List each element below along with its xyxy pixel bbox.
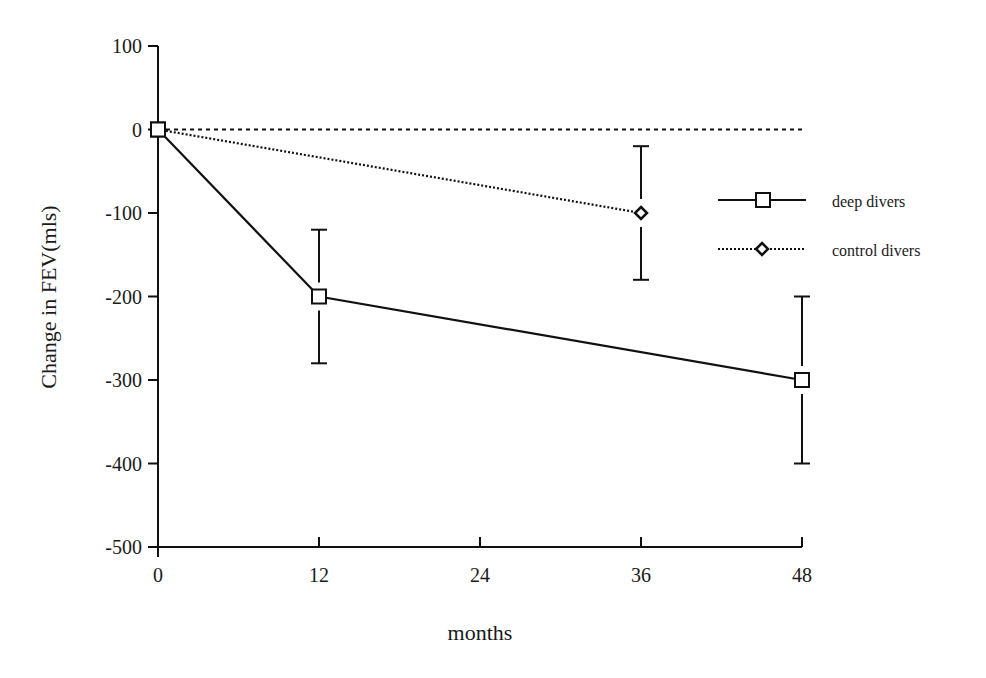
y-tick-label: 0: [132, 119, 142, 141]
series-line: [158, 130, 641, 214]
chart: 1000-100-200-300-400-500 012243648 deep …: [0, 0, 986, 678]
x-axis-label: months: [448, 620, 513, 645]
square-marker-icon: [795, 373, 809, 387]
diamond-marker-icon: [756, 243, 768, 255]
square-marker-icon: [312, 290, 326, 304]
legend-label-control-divers: control divers: [832, 242, 920, 259]
plot-series: [151, 123, 810, 464]
y-tick-label: -300: [105, 369, 142, 391]
y-tick-label: -400: [105, 453, 142, 475]
x-tick-label: 0: [153, 564, 163, 586]
legend: deep divers control divers: [718, 193, 920, 259]
x-tick-label: 24: [470, 564, 490, 586]
series-line: [158, 130, 802, 381]
legend-label-deep-divers: deep divers: [832, 193, 905, 211]
x-tick-label: 12: [309, 564, 329, 586]
diamond-marker-icon: [635, 207, 647, 219]
square-marker-icon: [756, 193, 770, 207]
y-tick-label: 100: [112, 35, 142, 57]
x-tick-label: 48: [792, 564, 812, 586]
y-tick-label: -500: [105, 536, 142, 558]
x-axis: 012243648: [148, 537, 812, 586]
y-tick-label: -100: [105, 202, 142, 224]
series-deep-divers: [151, 123, 810, 464]
x-tick-label: 36: [631, 564, 651, 586]
y-tick-label: -200: [105, 286, 142, 308]
square-marker-icon: [151, 123, 165, 137]
y-axis-label: Change in FEV(mls): [36, 205, 61, 388]
y-axis: 1000-100-200-300-400-500: [105, 35, 158, 558]
